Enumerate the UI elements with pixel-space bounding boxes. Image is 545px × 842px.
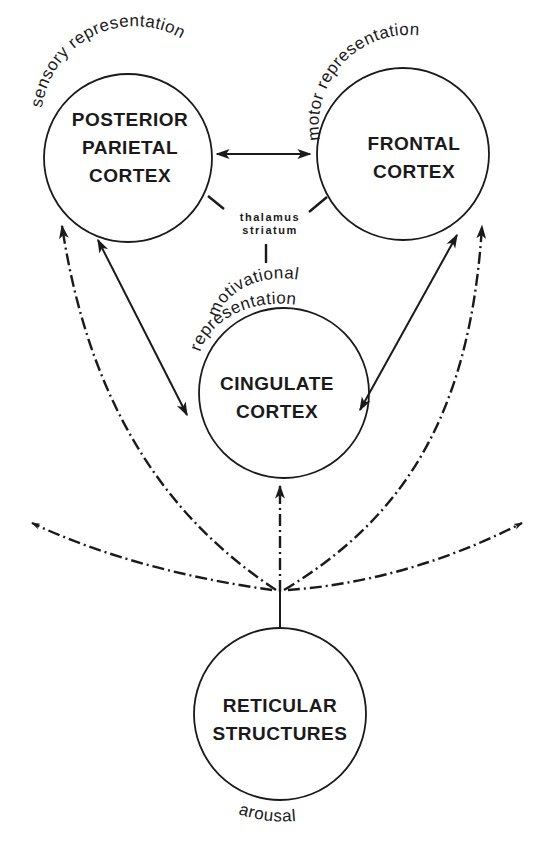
posterior-parietal-label-line3: CORTEX	[89, 165, 171, 186]
hub-tick-posterior	[208, 196, 224, 209]
motor-representation-annotation: motor representation	[304, 20, 421, 142]
posterior-parietal-label-line2: PARIETAL	[82, 137, 178, 158]
frontal-circle	[317, 68, 489, 240]
node-reticular-structures: RETICULAR STRUCTURES arousal	[194, 628, 366, 826]
edge-parietal-cingulate	[98, 240, 187, 415]
representation-annotation: representation	[186, 289, 298, 354]
posterior-parietal-circle	[44, 74, 212, 242]
edge-reticular-right-outflow	[288, 523, 522, 590]
node-frontal-cortex: FRONTAL CORTEX motor representation	[304, 20, 489, 240]
edge-frontal-cingulate	[360, 235, 457, 410]
hub-tick-frontal	[309, 197, 327, 212]
node-posterior-parietal-cortex: POSTERIOR PARIETAL CORTEX sensory repres…	[27, 11, 212, 242]
reticular-label-line1: RETICULAR	[223, 695, 337, 716]
attention-network-diagram: POSTERIOR PARIETAL CORTEX sensory repres…	[0, 0, 545, 842]
frontal-label-line2: CORTEX	[373, 161, 455, 182]
cingulate-label-line1: CINGULATE	[220, 373, 334, 394]
sensory-representation-annotation: sensory representation	[27, 11, 189, 109]
frontal-label-line1: FRONTAL	[368, 133, 461, 154]
thalamus-striatum-hub: thalamus striatum	[208, 196, 327, 263]
edge-reticular-left-outflow	[32, 523, 272, 590]
node-cingulate-cortex: CINGULATE CORTEX motivational representa…	[186, 263, 369, 478]
thalamus-label: thalamus	[240, 211, 300, 223]
arousal-annotation: arousal	[237, 800, 297, 826]
striatum-label: striatum	[242, 224, 297, 236]
posterior-parietal-label-line1: POSTERIOR	[72, 109, 188, 130]
reticular-label-line2: STRUCTURES	[213, 723, 348, 744]
cingulate-label-line2: CORTEX	[236, 401, 318, 422]
